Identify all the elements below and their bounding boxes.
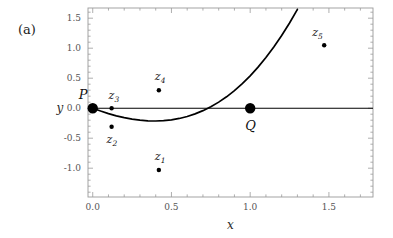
y-tick-label: 1.5 <box>67 13 82 23</box>
point-label-z3: z3 <box>108 89 120 104</box>
point-label-q: Q <box>245 118 256 133</box>
point-label-z1: z1 <box>154 150 166 165</box>
y-tick-label: -0.5 <box>64 133 82 143</box>
plot-frame <box>88 8 373 197</box>
data-point-z2 <box>109 125 113 129</box>
y-tick-label: -1.0 <box>64 163 82 173</box>
x-tick-label: 1.5 <box>322 202 337 212</box>
data-point-z3 <box>109 106 113 110</box>
scatter-plot-canvas: 0.00.51.01.5-1.0-0.50.00.51.01.5xyPQz1z2… <box>0 0 393 238</box>
data-point-q <box>245 103 255 113</box>
y-tick-label: 1.0 <box>67 43 82 53</box>
x-tick-label: 1.0 <box>243 202 258 212</box>
y-axis-title: y <box>56 101 64 115</box>
curve-path <box>93 9 298 121</box>
x-tick-label: 0.5 <box>164 202 179 212</box>
figure-panel-a: (a) 0.00.51.01.5-1.0-0.50.00.51.01.5xyPQ… <box>0 0 393 238</box>
data-point-z4 <box>157 88 161 92</box>
y-tick-label: 0.5 <box>67 73 82 83</box>
data-point-z5 <box>322 43 326 47</box>
x-axis-title: x <box>227 218 234 232</box>
data-point-z1 <box>157 168 161 172</box>
data-point-p <box>88 103 98 113</box>
point-label-p: P <box>78 87 88 102</box>
point-label-z4: z4 <box>154 70 166 85</box>
point-label-z2: z2 <box>106 133 118 148</box>
y-tick-label: 0.0 <box>67 103 82 113</box>
x-tick-label: 0.0 <box>86 202 101 212</box>
point-label-z5: z5 <box>311 26 323 41</box>
